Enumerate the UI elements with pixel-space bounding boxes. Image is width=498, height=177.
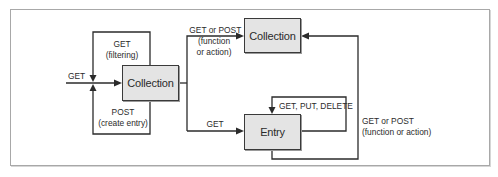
collection-node-target-label: Collection (249, 30, 295, 42)
collection-function-label-line3: or action) (189, 46, 238, 57)
collection-node-target: Collection (244, 18, 301, 53)
arrow-up-icon (90, 84, 97, 91)
collection-function-label: GET or POST (function or action) (189, 24, 238, 57)
filtering-label-line2: (filtering) (99, 49, 145, 60)
arrow-right-icon (114, 80, 122, 87)
entry-function-label-line2: (function or action) (362, 126, 431, 137)
entry-node: Entry (244, 114, 301, 150)
collection-node-main: Collection (122, 65, 179, 101)
collection-function-label-line2: (function (189, 35, 238, 46)
create-entry-label-line1: POST (96, 106, 151, 117)
create-entry-label-line2: (create entry) (96, 117, 151, 128)
arrow-left-icon (301, 33, 309, 40)
collection-function-label-line1: GET or POST (189, 24, 238, 35)
entry-self-label: GET, PUT, DELETE (279, 100, 353, 111)
filtering-label-line1: GET (99, 38, 145, 49)
collection-to-entry-label: GET (202, 118, 228, 129)
arrow-down-icon (269, 107, 276, 114)
entry-function-label-line1: GET or POST (362, 115, 431, 126)
collection-node-main-label: Collection (127, 77, 173, 89)
create-entry-label: POST (create entry) (96, 106, 151, 128)
arrow-down-icon (90, 75, 97, 82)
incoming-get-label: GET (68, 70, 85, 81)
arrow-right-icon (236, 128, 244, 135)
filtering-label: GET (filtering) (99, 38, 145, 60)
entry-node-label: Entry (260, 126, 285, 138)
entry-function-label: GET or POST (function or action) (362, 115, 431, 137)
